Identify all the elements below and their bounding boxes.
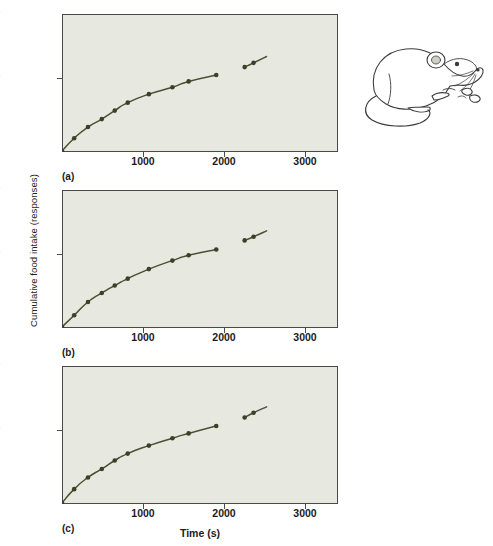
panel-label-b: (b) (62, 347, 75, 358)
x-tick-3000-a: 3000 (293, 155, 316, 167)
y-tick-mark-120-a (57, 78, 62, 79)
x-tick-1000-a: 1000 (131, 155, 154, 167)
rat-illustration-icon (358, 24, 490, 144)
x-axis-title: Time (s) (62, 527, 338, 539)
x-tick-2000-b: 2000 (212, 331, 235, 343)
x-tick-1000-b: 1000 (131, 331, 154, 343)
x-tick-2000-c: 2000 (212, 507, 235, 519)
figure-cumulative-food-intake: Cumulative food intake (responses) 240 1… (0, 0, 493, 546)
y-tick-mark-120-b (57, 254, 62, 255)
panel-label-a: (a) (62, 171, 74, 182)
y-tick-mark-120-c (57, 430, 62, 431)
y-axis-title: Cumulative food intake (responses) (28, 126, 39, 376)
x-tick-2000-a: 2000 (212, 155, 235, 167)
plot-curve-c (62, 366, 338, 504)
x-tick-3000-c: 3000 (293, 507, 316, 519)
x-tick-1000-c: 1000 (131, 507, 154, 519)
plot-curve-b (62, 190, 338, 328)
plot-curve-a (62, 14, 338, 152)
x-tick-3000-b: 3000 (293, 331, 316, 343)
